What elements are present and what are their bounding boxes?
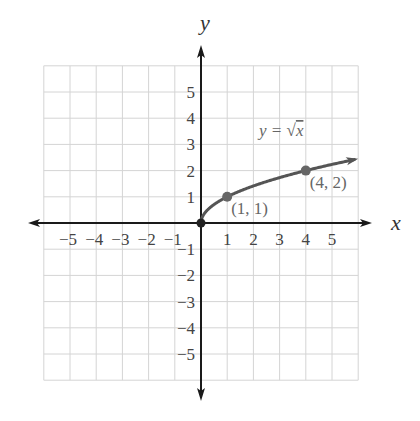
y-tick-label: 4 <box>187 109 196 128</box>
y-tick-label: 2 <box>187 162 196 181</box>
x-axis-label: x <box>390 210 401 235</box>
y-tick-label: 3 <box>187 135 196 154</box>
x-tick-label: 5 <box>328 230 337 249</box>
x-tick-label: −4 <box>85 230 104 249</box>
y-tick-label: 5 <box>187 83 196 102</box>
y-tick-label: −3 <box>177 293 195 312</box>
function-label-x: x <box>295 121 304 140</box>
x-tick-label: 4 <box>302 230 311 249</box>
point-label: (1, 1) <box>231 199 268 218</box>
point-label: (4, 2) <box>310 173 347 192</box>
y-tick-label: 1 <box>187 188 196 207</box>
y-tick-label: −5 <box>177 345 195 364</box>
x-tick-label: 2 <box>249 230 258 249</box>
function-label: y = √x <box>257 121 304 140</box>
chart: −5−4−3−2−11234554321−1−2−3−4−5 (1, 1)(4,… <box>0 0 420 421</box>
y-axis-label: y <box>198 10 210 35</box>
y-tick-label: −2 <box>177 266 195 285</box>
point-marker <box>197 219 206 228</box>
x-tick-label: −2 <box>138 230 156 249</box>
x-tick-label: 1 <box>223 230 232 249</box>
coordinate-plane: −5−4−3−2−11234554321−1−2−3−4−5 (1, 1)(4,… <box>0 0 420 421</box>
y-tick-label: −4 <box>177 319 196 338</box>
y-tick-label: −1 <box>177 240 195 259</box>
x-tick-label: 3 <box>275 230 284 249</box>
x-tick-label: −3 <box>111 230 129 249</box>
function-label-lhs: y = <box>257 121 287 140</box>
x-tick-label: −5 <box>59 230 77 249</box>
